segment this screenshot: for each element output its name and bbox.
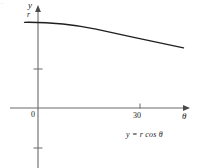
y-tick-label-r: r [27,11,30,19]
origin-label: 0 [31,111,35,119]
figure-container: · y r 0 30 θ y = r cos θ [0,0,199,168]
arrow-up-icon [35,5,41,12]
plot-canvas [0,0,199,168]
x-tick-label-30: 30 [133,112,141,120]
equation-annotation: y = r cos θ [126,131,163,139]
axis-label-theta: θ [182,112,186,121]
curve-y-equals-r-cos-theta [25,22,184,48]
axis-label-y: y [28,1,32,10]
